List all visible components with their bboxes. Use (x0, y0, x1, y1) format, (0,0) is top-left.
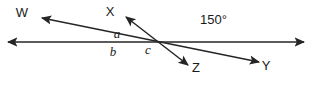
point-label-y: Y (262, 58, 271, 73)
point-label-w: W (16, 5, 29, 20)
geometry-diagram: W X Z Y a b c 150° (0, 0, 312, 85)
point-label-x: X (106, 4, 115, 19)
ray-x-to-z (126, 17, 188, 65)
point-label-z: Z (192, 60, 200, 75)
angle-measure-150: 150° (200, 12, 227, 27)
angle-label-a: a (114, 26, 121, 41)
geometry-canvas: W X Z Y a b c 150° (0, 0, 312, 85)
angle-label-b: b (110, 44, 117, 59)
angle-label-c: c (145, 42, 151, 57)
